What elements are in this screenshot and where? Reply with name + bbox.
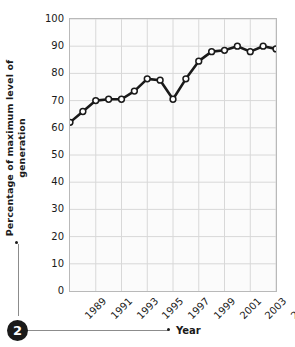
x-axis-leader-dot [167,328,170,331]
y-axis-tick-label: 80 [30,68,64,78]
x-axis-tick-label: 1997 [186,296,211,321]
x-axis-tick-label: 2003 [264,296,289,321]
y-axis-tick-label: 100 [30,14,64,24]
data-point-marker: 2003: 88 [247,49,253,55]
y-axis-title: Percentage of maximum level of generatio… [2,18,28,278]
y-axis-title-line1: Percentage of maximum level of [4,60,15,237]
y-axis-tick-label: 20 [30,232,64,242]
data-point-marker: 1989: 62 [70,119,73,125]
x-axis-tick-label: 1989 [83,296,108,321]
x-axis-tick-label: 1991 [109,296,134,321]
y-axis-title-line2: generation [15,60,27,237]
y-axis-tick-label: 60 [30,123,64,133]
plot-area: 1989: 621990: 661991: 701992: 70.51993: … [69,18,277,292]
data-point-marker: 2004: 90 [260,43,266,49]
data-point-marker: 2002: 90 [234,43,240,49]
data-point-marker: 2001: 88.5 [222,47,228,53]
data-point-marker: 1990: 66 [80,109,86,115]
x-axis-tick-label: 1995 [161,296,186,321]
x-axis-tick-label: 1999 [212,296,237,321]
x-axis-title: Year [176,325,201,336]
x-axis-tick-label: 2005 [289,296,295,321]
data-point-marker: 2000: 88 [209,49,215,55]
chart-figure: Percentage of maximum level of generatio… [0,0,295,347]
x-axis-leader-line [18,330,168,331]
x-axis-tick-label: 2001 [238,296,263,321]
x-axis-tick-label: 1993 [135,296,160,321]
y-axis-tick-label: 90 [30,41,64,51]
data-point-marker: 1992: 70.5 [106,96,112,102]
y-axis-tick-label: 40 [30,177,64,187]
grid-lines [70,19,276,291]
figure-number-badge: 2 [7,320,28,341]
data-point-marker: 1996: 77.5 [157,77,163,83]
data-point-marker: 1995: 78 [144,76,150,82]
data-point-marker: 1991: 70 [93,98,99,104]
data-point-marker: 2005: 89 [273,46,276,52]
y-axis-tick-label: 70 [30,96,64,106]
y-axis-tick-label: 50 [30,150,64,160]
data-point-marker: 1998: 78 [183,76,189,82]
data-point-marker: 1993: 70.5 [119,96,125,102]
data-point-marker: 1997: 70.5 [170,96,176,102]
x-axis-tick-labels: 198919911993199519971999200120032005 [0,292,295,344]
data-point-marker: 1994: 73.5 [131,88,137,94]
y-axis-tick-label: 10 [30,259,64,269]
data-point-marker: 1999: 84.5 [196,58,202,64]
chart-canvas: 1989: 621990: 661991: 701992: 70.51993: … [70,19,276,291]
y-axis-tick-label: 30 [30,204,64,214]
